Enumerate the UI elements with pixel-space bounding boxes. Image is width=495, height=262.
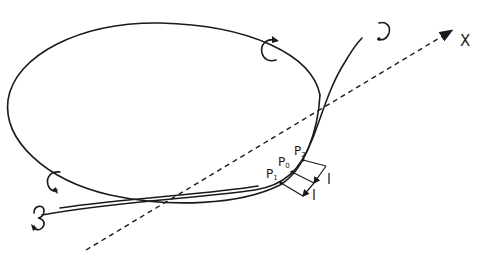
rotation-icon-open-curve-top: [377, 23, 389, 41]
segment-label-l-upper: l: [327, 171, 331, 187]
x-axis-label: X: [460, 32, 470, 50]
offset-line-p2: [303, 160, 326, 166]
segment-l-upper: [314, 166, 326, 183]
rotation-icon-open-curve-left: [31, 206, 44, 231]
rotation-icon-ellipse-top: [262, 36, 279, 61]
offset-line-p1: [281, 183, 303, 196]
offset-line-p0: [292, 172, 314, 183]
label-p1: P1: [266, 167, 278, 182]
segment-label-l-lower: l: [312, 187, 316, 203]
label-p2: P2: [294, 144, 306, 159]
diagram-canvas: X P1 P0 P2 l l: [0, 0, 495, 262]
label-p0: P0: [278, 155, 290, 170]
x-axis-dashed: [86, 31, 451, 250]
